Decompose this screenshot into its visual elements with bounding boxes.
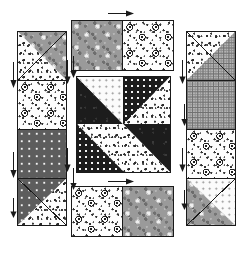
top-strip-patch-2 bbox=[123, 21, 173, 70]
right-strip-patch-4-hst bbox=[187, 179, 235, 225]
top-strip-seam bbox=[122, 21, 123, 70]
pinwheel-quadrant-top-left bbox=[77, 77, 124, 125]
right-outer-arrow-lower bbox=[180, 190, 188, 210]
fabric-grey-dot bbox=[18, 130, 66, 178]
diagonal-seam bbox=[187, 32, 235, 80]
left-outer-arrow-upper bbox=[9, 62, 17, 88]
left-strip-patch-3 bbox=[18, 130, 66, 178]
right-strip-arrow-lower bbox=[178, 148, 186, 172]
left-strip-patch-2 bbox=[18, 81, 66, 129]
fabric-grid-check bbox=[187, 81, 235, 129]
fabric-floral-ring bbox=[123, 21, 173, 70]
pinwheel-quadrant-bottom-left bbox=[77, 124, 124, 172]
bottom-strip-patch-1 bbox=[72, 187, 122, 236]
center-pinwheel-block bbox=[76, 76, 171, 173]
left-sashing-strip bbox=[17, 31, 67, 226]
left-strip-patch-1-hst bbox=[18, 32, 66, 80]
left-outer-arrow-lower bbox=[9, 152, 17, 178]
fabric-floral-ring bbox=[72, 187, 122, 236]
right-strip-patch-2 bbox=[187, 81, 235, 129]
left-strip-arrow-bottom bbox=[9, 198, 17, 218]
right-sashing-strip bbox=[186, 31, 236, 226]
bottom-strip-patch-2 bbox=[123, 187, 173, 236]
bottom-strip-pressing-arrow bbox=[108, 177, 134, 185]
right-outer-arrow-upper bbox=[180, 104, 188, 126]
centre-left-arrow-bottom bbox=[69, 168, 77, 190]
diagonal-seam bbox=[18, 32, 66, 80]
bottom-sashing-strip bbox=[71, 186, 174, 237]
top-sashing-strip bbox=[71, 20, 174, 71]
right-strip-patch-3 bbox=[187, 130, 235, 178]
pinwheel-quadrant-bottom-right bbox=[123, 124, 170, 172]
top-strip-patch-1 bbox=[72, 21, 122, 70]
right-strip-arrow-upper bbox=[178, 60, 186, 84]
fabric-grey-floral bbox=[123, 187, 173, 236]
fabric-floral-ring bbox=[18, 81, 66, 129]
right-strip-patch-1-hst bbox=[187, 32, 235, 80]
bottom-strip-seam bbox=[122, 187, 123, 236]
fabric-grey-floral bbox=[72, 21, 122, 70]
quilt-block-diagram bbox=[0, 0, 247, 254]
top-strip-pressing-arrow bbox=[108, 9, 134, 17]
diagonal-seam bbox=[18, 179, 66, 225]
pinwheel bbox=[77, 77, 170, 172]
fabric-floral-ring bbox=[187, 130, 235, 178]
pinwheel-quadrant-top-right bbox=[123, 77, 170, 125]
centre-left-arrow-top bbox=[69, 56, 77, 78]
diagonal-seam bbox=[187, 179, 235, 225]
left-strip-patch-4-hst bbox=[18, 179, 66, 225]
